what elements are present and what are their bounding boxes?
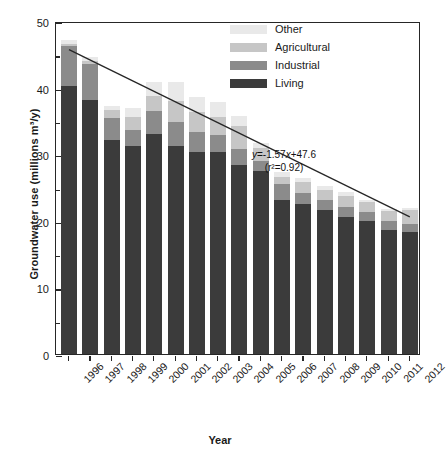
legend-label-other: Other — [275, 23, 303, 35]
x-tick-label-2004: 2004 — [251, 360, 276, 385]
x-tick-label-2007: 2007 — [315, 360, 340, 385]
x-tick-mark-2012 — [409, 356, 410, 361]
legend-swatch-agricultural — [230, 43, 267, 52]
x-tick-label-2009: 2009 — [358, 360, 383, 385]
x-tick-label-2011: 2011 — [400, 360, 424, 384]
x-tick-label-2010: 2010 — [379, 360, 404, 385]
x-tick-mark-2003 — [217, 356, 218, 361]
x-tick-mark-2004 — [238, 356, 239, 361]
x-axis-title: Year — [0, 434, 440, 446]
y-tick-label-10: 10 — [37, 283, 56, 295]
x-tick-mark-2009 — [345, 356, 346, 361]
y-tick-label-20: 20 — [37, 217, 56, 229]
legend-label-living: Living — [275, 77, 304, 89]
x-tick-label-1999: 1999 — [145, 360, 170, 385]
x-tick-mark-1997 — [89, 356, 90, 361]
y-tick-label-40: 40 — [37, 84, 56, 96]
legend-label-industrial: Industrial — [275, 59, 320, 71]
x-tick-mark-2008 — [324, 356, 325, 361]
legend-swatch-living — [230, 79, 267, 88]
x-tick-mark-2006 — [281, 356, 282, 361]
x-tick-mark-2010 — [366, 356, 367, 361]
x-tick-mark-2011 — [388, 356, 389, 361]
x-tick-mark-2005 — [260, 356, 261, 361]
y-tick-label-50: 50 — [37, 17, 56, 29]
x-tick-label-2002: 2002 — [209, 360, 234, 385]
legend-swatch-industrial — [230, 61, 267, 70]
x-tick-mark-2007 — [302, 356, 303, 361]
legend-swatch-other — [230, 25, 267, 34]
legend-item-industrial[interactable]: Industrial — [230, 56, 330, 74]
x-tick-label-2008: 2008 — [336, 360, 361, 385]
x-tick-mark-1998 — [111, 356, 112, 361]
x-tick-label-2012: 2012 — [422, 360, 447, 385]
equation-coefficient: =-1.57 — [257, 149, 286, 160]
x-tick-label-1996: 1996 — [81, 360, 106, 385]
x-tick-label-2001: 2001 — [187, 360, 212, 385]
legend-label-agricultural: Agricultural — [275, 41, 330, 53]
chart-legend: OtherAgriculturalIndustrialLiving — [230, 20, 330, 92]
legend-item-agricultural[interactable]: Agricultural — [230, 38, 330, 56]
x-tick-label-2005: 2005 — [273, 360, 298, 385]
y-tick-label-0: 0 — [43, 350, 56, 362]
legend-item-other[interactable]: Other — [230, 20, 330, 38]
equation-line-2: (r²=0.92) — [252, 161, 316, 174]
x-tick-mark-2002 — [196, 356, 197, 361]
equation-line-1: y=-1.57x+47.6 — [252, 148, 316, 161]
trendline-equation: y=-1.57x+47.6 (r²=0.92) — [252, 148, 316, 174]
x-tick-label-1997: 1997 — [102, 360, 127, 385]
x-tick-label-1998: 1998 — [123, 360, 148, 385]
x-tick-mark-2001 — [175, 356, 176, 361]
equation-intercept: +47.6 — [291, 149, 316, 160]
y-tick-label-30: 30 — [37, 150, 56, 162]
x-tick-mark-1999 — [132, 356, 133, 361]
x-tick-mark-2000 — [153, 356, 154, 361]
x-tick-label-2003: 2003 — [230, 360, 255, 385]
x-tick-mark-1996 — [68, 356, 69, 361]
x-tick-label-2006: 2006 — [294, 360, 319, 385]
x-tick-label-2000: 2000 — [166, 360, 191, 385]
legend-item-living[interactable]: Living — [230, 74, 330, 92]
